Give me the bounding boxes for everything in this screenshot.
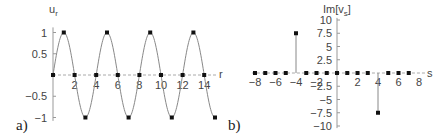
b-data-point [376, 111, 380, 115]
b-data-point [335, 71, 339, 75]
a-data-point [202, 73, 206, 77]
a-data-point [137, 73, 141, 77]
a-y-tick-label: −0.5 [25, 90, 47, 102]
b-x-tick-label: −2 [310, 76, 323, 88]
b-x-tick-label: 6 [395, 76, 401, 88]
b-y-tick-label: −5 [319, 94, 332, 106]
a-x-tick-label: 12 [176, 79, 188, 91]
a-data-point [73, 73, 77, 77]
panel-a-chart: 10.5−0.5−12468101214urra) [16, 3, 223, 134]
b-x-tick-label: −6 [269, 76, 282, 88]
a-data-point [51, 73, 55, 77]
panel-a-label: a) [16, 117, 28, 134]
a-y-tick-label: 0.5 [32, 48, 47, 60]
a-x-tick-label: 14 [198, 79, 210, 91]
a-x-axis-label: r [219, 68, 223, 80]
b-data-point [263, 71, 267, 75]
b-data-point [397, 71, 401, 75]
a-x-tick-label: 10 [155, 79, 167, 91]
b-x-tick-label: 2 [354, 76, 360, 88]
a-data-point [159, 73, 163, 77]
b-y-tick-label: 10 [320, 14, 332, 26]
a-y-tick-label: −1 [34, 112, 47, 124]
a-data-point [213, 116, 217, 120]
a-data-point [170, 116, 174, 120]
b-data-point [284, 71, 288, 75]
a-y-axis-label: ur [49, 3, 58, 18]
panel-b-chart: 107.552.5−2.5−5−7.5−10−8−6−4−22468Im[vs]… [228, 3, 433, 134]
b-data-point [253, 71, 257, 75]
b-data-point [274, 71, 278, 75]
a-data-point [83, 116, 87, 120]
b-data-point [325, 71, 329, 75]
a-y-tick-label: 1 [41, 27, 47, 39]
b-data-point [366, 71, 370, 75]
a-data-point [127, 116, 131, 120]
b-x-tick-label: 8 [416, 76, 422, 88]
a-data-point [191, 31, 195, 35]
b-y-tick-label: 2.5 [317, 54, 332, 66]
a-data-point [148, 31, 152, 35]
b-y-tick-label: −10 [313, 120, 332, 132]
b-data-point [386, 71, 390, 75]
b-x-tick-label: −8 [249, 76, 262, 88]
panel-b-label: b) [228, 117, 241, 134]
b-data-point [304, 71, 308, 75]
b-data-point [407, 71, 411, 75]
b-y-tick-label: 5 [326, 41, 332, 53]
figure: 10.5−0.5−12468101214urra) 107.552.5−2.5−… [0, 0, 444, 140]
b-data-point [356, 71, 360, 75]
b-x-tick-label: −4 [290, 76, 303, 88]
a-data-point [94, 73, 98, 77]
a-data-point [62, 31, 66, 35]
b-data-point [294, 31, 298, 35]
a-data-point [181, 73, 185, 77]
a-data-point [116, 73, 120, 77]
b-x-axis-label: s [427, 67, 433, 79]
b-data-point [345, 71, 349, 75]
b-data-point [315, 71, 319, 75]
b-y-tick-label: 7.5 [317, 27, 332, 39]
a-data-point [105, 31, 109, 35]
b-y-tick-label: −7.5 [310, 107, 332, 119]
